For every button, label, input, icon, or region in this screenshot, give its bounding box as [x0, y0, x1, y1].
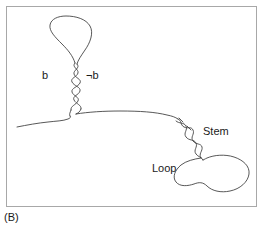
label-strand-not-b: ¬b — [86, 70, 99, 81]
diagram-frame-border — [6, 6, 257, 207]
label-stem: Stem — [203, 126, 229, 137]
label-strand-b: b — [42, 70, 48, 81]
label-loop: Loop — [152, 163, 176, 174]
figure-caption: (B) — [4, 212, 19, 223]
figure-root: b ¬b Stem Loop (B) — [0, 0, 267, 230]
